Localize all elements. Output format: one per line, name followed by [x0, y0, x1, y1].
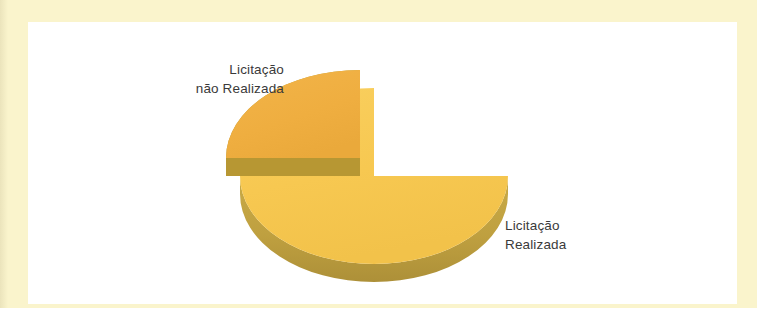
pie-chart-svg	[28, 22, 737, 304]
figure-canvas: Licitação não Realizada Licitação Realiz…	[0, 0, 781, 314]
label-realizada-line1: Licitação	[505, 216, 566, 235]
frame-edge-shadow	[0, 0, 8, 308]
label-realizada-line2: Realizada	[505, 235, 566, 254]
pie-chart: Licitação não Realizada Licitação Realiz…	[28, 22, 737, 304]
pie-slice-nao-realizada-cut-wall	[226, 158, 360, 176]
label-licitacao-nao-realizada: Licitação não Realizada	[148, 60, 284, 98]
label-licitacao-realizada: Licitação Realizada	[505, 216, 566, 254]
label-nao-realizada-line2: não Realizada	[148, 79, 284, 98]
label-nao-realizada-line1: Licitação	[148, 60, 284, 79]
